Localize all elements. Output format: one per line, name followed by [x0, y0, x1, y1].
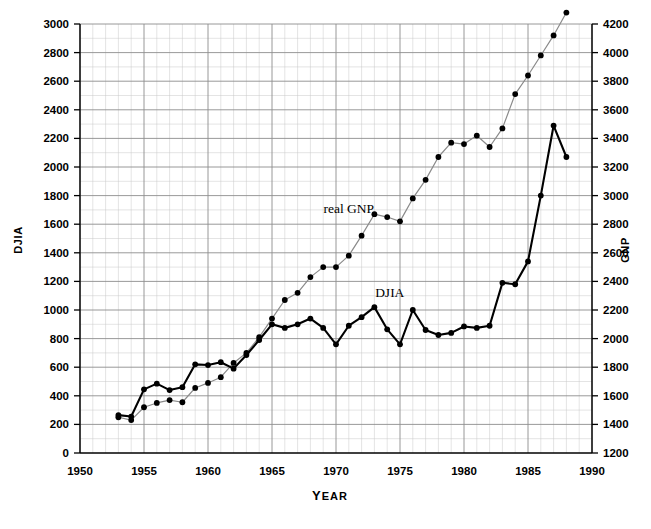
data-point-marker — [308, 316, 314, 322]
data-point-marker — [461, 141, 467, 147]
x-axis-tick-label: 1955 — [131, 465, 157, 477]
y-axis-tick-label-left: 200 — [50, 418, 69, 430]
data-point-marker — [308, 274, 314, 280]
y-axis-tick-label-right: 2800 — [603, 218, 629, 230]
x-axis-tick-label: 1970 — [323, 465, 349, 477]
data-point-marker — [461, 324, 467, 330]
y-axis-tick-label-right: 2400 — [603, 275, 629, 287]
dual-axis-line-chart: 0200400600800100012001400160018002000220… — [0, 0, 651, 529]
x-axis-tick-label: 1950 — [67, 465, 93, 477]
data-point-marker — [423, 327, 429, 333]
data-point-marker — [154, 381, 160, 387]
series-annotation-djia: DJIA — [375, 285, 404, 300]
data-point-marker — [333, 264, 339, 270]
data-point-marker — [192, 361, 198, 367]
y-axis-tick-label-left: 0 — [63, 447, 69, 459]
y-axis-tick-label-left: 400 — [50, 390, 69, 402]
data-point-marker — [512, 91, 518, 97]
y-axis-tick-label-left: 1800 — [43, 190, 69, 202]
data-point-marker — [551, 123, 557, 129]
data-point-marker — [384, 326, 390, 332]
data-point-marker — [218, 374, 224, 380]
data-point-marker — [346, 253, 352, 259]
data-point-marker — [525, 258, 531, 264]
data-point-marker — [154, 400, 160, 406]
y-axis-tick-label-left: 800 — [50, 333, 69, 345]
y-axis-tick-label-left: 600 — [50, 361, 69, 373]
y-axis-title-left: DJIA — [12, 226, 24, 253]
data-point-marker — [436, 332, 442, 338]
data-point-marker — [205, 362, 211, 368]
y-axis-tick-label-right: 2000 — [603, 333, 629, 345]
y-axis-tick-label-right: 3800 — [603, 75, 629, 87]
y-axis-tick-label-left: 2400 — [43, 104, 69, 116]
y-axis-tick-label-left: 1200 — [43, 275, 69, 287]
y-axis-tick-label-left: 1600 — [43, 218, 69, 230]
data-point-marker — [512, 281, 518, 287]
data-point-marker — [551, 33, 557, 39]
data-point-marker — [167, 397, 173, 403]
data-point-marker — [180, 384, 186, 390]
data-point-marker — [359, 233, 365, 239]
y-axis-tick-label-right: 4200 — [603, 18, 629, 30]
data-point-marker — [282, 297, 288, 303]
data-point-marker — [372, 304, 378, 310]
data-point-marker — [333, 341, 339, 347]
x-axis-tick-label: 1965 — [259, 465, 285, 477]
y-axis-tick-label-right: 3400 — [603, 132, 629, 144]
x-axis-title: YEAR — [312, 488, 348, 503]
data-point-marker — [525, 73, 531, 79]
data-point-marker — [410, 307, 416, 313]
y-axis-tick-label-right: 3600 — [603, 104, 629, 116]
data-point-marker — [397, 218, 403, 224]
y-axis-title-right: GNP — [619, 237, 631, 263]
data-point-marker — [423, 177, 429, 183]
data-point-marker — [256, 337, 262, 343]
data-point-marker — [410, 196, 416, 202]
y-axis-tick-label-right: 2200 — [603, 304, 629, 316]
data-point-marker — [320, 264, 326, 270]
data-point-marker — [141, 404, 147, 410]
data-point-marker — [116, 412, 122, 418]
data-point-marker — [231, 360, 237, 366]
data-point-marker — [487, 144, 493, 150]
data-point-marker — [218, 359, 224, 365]
y-axis-tick-label-left: 3000 — [43, 18, 69, 30]
data-point-marker — [269, 321, 275, 327]
data-point-marker — [192, 385, 198, 391]
data-point-marker — [320, 325, 326, 331]
y-axis-tick-label-left: 1000 — [43, 304, 69, 316]
data-point-marker — [346, 323, 352, 329]
x-axis-tick-label: 1960 — [195, 465, 221, 477]
data-point-marker — [180, 399, 186, 405]
y-axis-tick-label-left: 1400 — [43, 247, 69, 259]
data-point-marker — [436, 154, 442, 160]
data-point-marker — [538, 53, 544, 59]
y-axis-tick-label-left: 2200 — [43, 132, 69, 144]
data-point-marker — [474, 133, 480, 139]
y-axis-tick-label-left: 2600 — [43, 75, 69, 87]
y-axis-tick-label-right: 3200 — [603, 161, 629, 173]
y-axis-tick-label-left: 2000 — [43, 161, 69, 173]
data-point-marker — [500, 125, 506, 131]
x-axis-tick-label: 1990 — [579, 465, 605, 477]
data-point-marker — [564, 10, 570, 16]
data-point-marker — [500, 280, 506, 286]
data-point-marker — [487, 323, 493, 329]
data-point-marker — [564, 154, 570, 160]
y-axis-tick-label-right: 4000 — [603, 47, 629, 59]
y-axis-tick-label-left: 2800 — [43, 47, 69, 59]
data-point-marker — [295, 290, 301, 296]
data-point-marker — [205, 380, 211, 386]
y-axis-tick-label-right: 3000 — [603, 190, 629, 202]
data-point-marker — [359, 314, 365, 320]
y-axis-tick-label-right: 1600 — [603, 390, 629, 402]
data-point-marker — [397, 341, 403, 347]
data-point-marker — [384, 214, 390, 220]
chart-figure: 0200400600800100012001400160018002000220… — [0, 0, 651, 529]
x-axis-tick-label: 1975 — [387, 465, 413, 477]
data-point-marker — [231, 366, 237, 372]
data-point-marker — [128, 414, 134, 420]
data-point-marker — [244, 352, 250, 358]
data-point-marker — [141, 386, 147, 392]
